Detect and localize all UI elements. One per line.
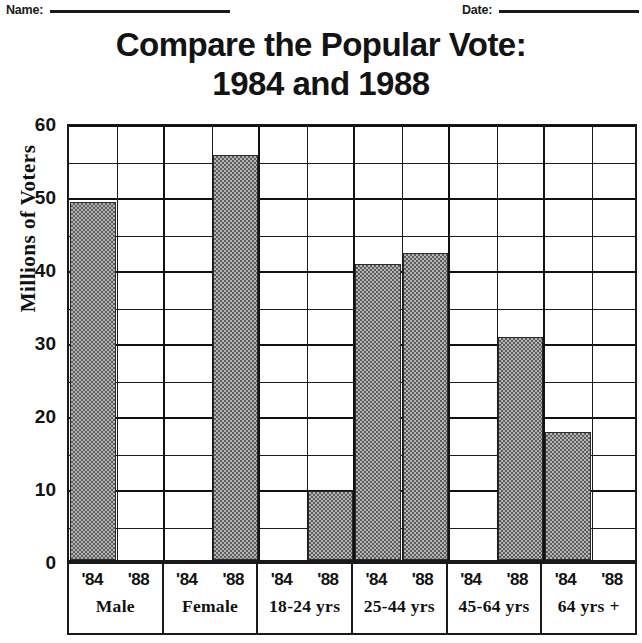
column-separator xyxy=(592,126,593,560)
page-title-line-2: 1984 and 1988 xyxy=(0,64,642,103)
x-group-female: '84'88Female xyxy=(164,564,259,633)
bar-45-64-yrs-88 xyxy=(498,337,544,560)
column-separator xyxy=(117,126,118,560)
x-group-label: Female xyxy=(164,595,257,633)
gridline-major xyxy=(69,344,635,346)
date-label: Date: xyxy=(462,3,492,17)
x-group-male: '84'88Male xyxy=(69,564,164,633)
x-year-label-88: '88 xyxy=(210,570,256,590)
bar-female-88 xyxy=(213,155,259,560)
x-group-label: 18-24 yrs xyxy=(258,595,351,633)
gridline-minor xyxy=(69,163,635,164)
x-year-label-88: '88 xyxy=(115,570,161,590)
x-year-row: '84'88 xyxy=(542,564,635,595)
date-write-line[interactable] xyxy=(499,10,639,13)
gridline-minor xyxy=(69,236,635,237)
group-separator xyxy=(163,126,165,560)
gridline-minor xyxy=(69,382,635,383)
gridline-major xyxy=(69,271,635,273)
x-year-label-88: '88 xyxy=(399,570,445,590)
x-year-label-88: '88 xyxy=(494,570,540,590)
x-year-label-84: '84 xyxy=(542,570,588,590)
x-year-label-84: '84 xyxy=(69,570,115,590)
y-tick-label-20: 20 xyxy=(35,407,56,426)
x-year-label-84: '84 xyxy=(258,570,304,590)
bar-64-yrs-84 xyxy=(545,432,591,560)
x-group-45-64-yrs: '84'8845-64 yrs xyxy=(448,564,543,633)
name-label: Name: xyxy=(6,3,43,17)
gridline-major xyxy=(69,417,635,419)
chart-plot-area xyxy=(67,124,637,562)
group-separator xyxy=(448,126,450,560)
x-group-label: 25-44 yrs xyxy=(353,595,446,633)
x-group-label: 45-64 yrs xyxy=(448,595,541,633)
bar-25-44-yrs-84 xyxy=(355,264,401,560)
x-group-64-yrs: '84'8864 yrs + xyxy=(542,564,635,633)
x-year-label-84: '84 xyxy=(448,570,494,590)
bar-18-24-yrs-88 xyxy=(308,491,354,560)
worksheet-header: Name: Date: xyxy=(0,0,642,26)
x-group-18-24-yrs: '84'8818-24 yrs xyxy=(258,564,353,633)
gridline-minor xyxy=(69,309,635,310)
x-year-label-88: '88 xyxy=(305,570,351,590)
y-tick-label-0: 0 xyxy=(45,553,56,572)
y-tick-label-10: 10 xyxy=(35,480,56,499)
x-year-row: '84'88 xyxy=(448,564,541,595)
bar-male-84 xyxy=(70,202,116,560)
x-year-row: '84'88 xyxy=(353,564,446,595)
x-group-25-44-yrs: '84'8825-44 yrs xyxy=(353,564,448,633)
x-year-row: '84'88 xyxy=(164,564,257,595)
page-title-line-1: Compare the Popular Vote: xyxy=(0,25,642,64)
x-year-label-84: '84 xyxy=(353,570,399,590)
gridline-major xyxy=(69,125,635,127)
x-year-label-88: '88 xyxy=(589,570,635,590)
date-field: Date: xyxy=(462,3,639,17)
name-field: Name: xyxy=(6,3,230,17)
x-group-label: Male xyxy=(69,595,162,633)
page-title: Compare the Popular Vote: 1984 and 1988 xyxy=(0,25,642,103)
x-year-row: '84'88 xyxy=(258,564,351,595)
group-separator xyxy=(258,126,260,560)
name-write-line[interactable] xyxy=(50,10,230,13)
x-axis-group-table: '84'88Male'84'88Female'84'8818-24 yrs'84… xyxy=(67,562,637,635)
y-axis-title: Millions of Voters xyxy=(16,109,41,349)
x-group-label: 64 yrs + xyxy=(542,595,635,633)
gridline-major xyxy=(69,198,635,200)
bar-25-44-yrs-88 xyxy=(403,253,449,560)
x-year-row: '84'88 xyxy=(69,564,162,595)
x-year-label-84: '84 xyxy=(164,570,210,590)
